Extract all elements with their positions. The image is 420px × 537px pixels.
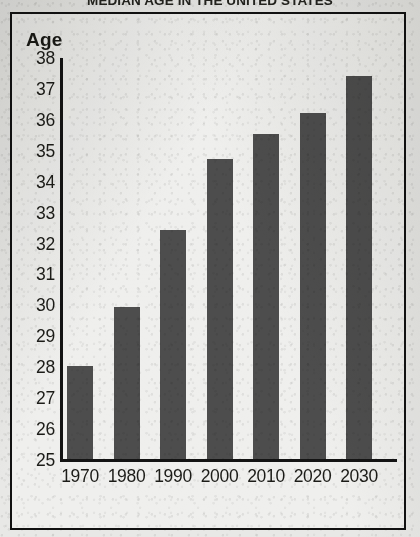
- y-axis-tick-label: 28: [36, 357, 55, 378]
- y-axis-tick-label: 37: [36, 78, 55, 99]
- bar: [67, 366, 93, 459]
- bar: [114, 307, 140, 459]
- x-axis-tick-label: 1990: [150, 466, 196, 487]
- x-axis-tick-label: 1970: [57, 466, 103, 487]
- chart-frame: Age 3837363534333231302928272625 1970198…: [10, 12, 406, 530]
- x-axis-tick-labels: 1970198019902000201020202030: [63, 466, 403, 494]
- y-axis-tick-label: 29: [36, 326, 55, 347]
- y-axis-tick-label: 32: [36, 233, 55, 254]
- y-axis-tick-labels: 3837363534333231302928272625: [12, 14, 58, 528]
- x-axis-tick-label: 2020: [290, 466, 336, 487]
- y-axis-tick-label: 36: [36, 109, 55, 130]
- x-axis-tick-label: 2010: [243, 466, 289, 487]
- x-axis-tick-label: 1980: [104, 466, 150, 487]
- bar: [253, 134, 279, 459]
- y-axis-tick-label: 33: [36, 202, 55, 223]
- y-axis-tick-label: 31: [36, 264, 55, 285]
- bars-layer: [63, 14, 397, 461]
- y-axis-tick-label: 30: [36, 295, 55, 316]
- bar: [160, 230, 186, 459]
- bar: [346, 76, 372, 459]
- x-axis-tick-label: 2000: [197, 466, 243, 487]
- y-axis-tick-label: 38: [36, 48, 55, 69]
- bar: [207, 159, 233, 459]
- y-axis-tick-label: 26: [36, 419, 55, 440]
- y-axis-tick-label: 27: [36, 388, 55, 409]
- bar: [300, 113, 326, 459]
- plot-region: Age 3837363534333231302928272625 1970198…: [12, 14, 404, 528]
- y-axis-tick-label: 35: [36, 140, 55, 161]
- chart-title: MEDIAN AGE IN THE UNITED STATES: [0, 0, 420, 6]
- y-axis-tick-label: 34: [36, 171, 55, 192]
- y-axis-tick-label: 25: [36, 450, 55, 471]
- x-axis-tick-label: 2030: [336, 466, 382, 487]
